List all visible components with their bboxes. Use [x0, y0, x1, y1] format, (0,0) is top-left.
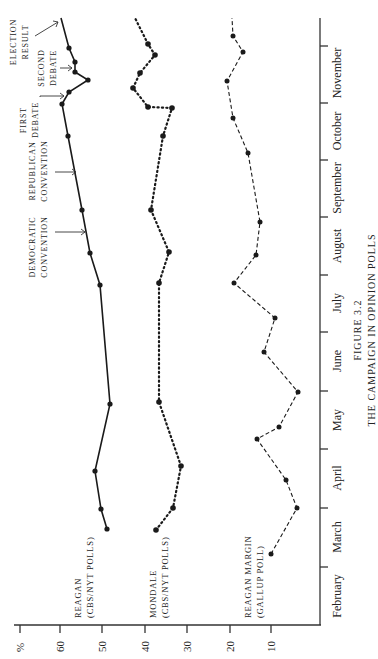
- month-label-april: April: [330, 465, 344, 491]
- annotation-democratic-convention-1: DEMOCRATIC: [28, 216, 37, 277]
- annotation-election-result-2: RESULT: [21, 25, 30, 60]
- label-reagan-source: (CBS/NYT POLLS): [85, 536, 95, 618]
- series-mondale: [130, 18, 184, 533]
- annotation-election-result-1: ELECTION: [9, 19, 18, 65]
- tick-label-20: 20: [224, 641, 236, 653]
- tick-label-10: 10: [265, 641, 277, 653]
- month-label-june: June: [330, 350, 344, 372]
- series-reagan: [59, 18, 112, 532]
- month-label-february: February: [330, 574, 344, 617]
- month-label-march: March: [330, 521, 344, 552]
- annotation-second-debate-2: DEBATE: [49, 50, 58, 86]
- annotation-first-debate-1: FIRST: [19, 107, 28, 133]
- series-reagan-margin: [225, 18, 301, 557]
- annotation-democratic-convention-2: CONVENTION: [40, 216, 49, 277]
- percent-axis: [14, 625, 321, 633]
- month-label-october: October: [330, 112, 344, 151]
- annotation-republican-convention-1: REPUBLICAN: [28, 141, 37, 200]
- tick-label-40: 40: [139, 641, 151, 653]
- label-mondale-source: (CBS/NYT POLLS): [160, 536, 170, 618]
- annotation-second-debate-1: SECOND: [37, 49, 46, 86]
- annotation-republican-convention-2: CONVENTION: [40, 140, 49, 201]
- label-mondale: MONDALE: [148, 570, 158, 618]
- month-label-september: September: [330, 162, 344, 213]
- label-margin-source: (GALLUP POLL): [255, 545, 265, 618]
- tick-label-50: 50: [96, 641, 108, 653]
- month-label-may: May: [330, 409, 344, 431]
- label-reagan: REAGAN: [73, 578, 83, 618]
- month-axis: [320, 18, 328, 625]
- opinion-poll-chart: % 60 50 40 30 20 10 February March April…: [0, 0, 378, 659]
- figure-title: THE CAMPAIGN IN OPINION POLLS: [366, 233, 377, 426]
- month-label-july: July: [330, 293, 344, 313]
- tick-label-60: 60: [54, 641, 66, 653]
- tick-label-percent: %: [14, 643, 26, 652]
- annotation-first-debate-2: DEBATE: [31, 102, 40, 138]
- figure-number: FIGURE 3.2: [352, 299, 363, 360]
- month-label-november: November: [330, 48, 344, 99]
- label-margin: REAGAN MARGIN: [243, 536, 253, 618]
- month-label-august: August: [330, 228, 344, 263]
- tick-label-30: 30: [181, 641, 193, 653]
